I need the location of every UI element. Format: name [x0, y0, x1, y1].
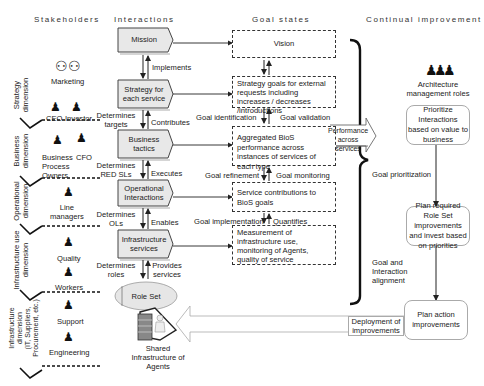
- header-interactions: Interactions: [114, 15, 175, 24]
- header-stakeholders: Stakeholders: [34, 15, 100, 24]
- stakeholder-ceo: CEO: [46, 114, 62, 123]
- dimension-infrastructure: Infrastructure dimension (IT, Suppliers,…: [8, 290, 40, 366]
- header-goal-states: Goal states: [252, 15, 310, 24]
- diagram-canvas: Stakeholders Interactions Goal states Co…: [0, 0, 484, 386]
- label-determines-roles: Determines roles: [92, 261, 140, 279]
- label-goal-prioritization: Goal prioritization: [372, 170, 431, 179]
- person-icon: ♟: [50, 100, 61, 114]
- step-plan-action[interactable]: Plan action improvements: [404, 300, 468, 340]
- dimension-strategy: Strategy dimension: [12, 70, 30, 120]
- label-goal-refinement: Goal refinement: [205, 171, 259, 180]
- label-executes: Executes: [151, 169, 182, 178]
- person-icon: ♟: [63, 330, 74, 344]
- label-determines-ols: Determines OLs: [92, 210, 140, 228]
- dimension-business: Business dimension: [12, 126, 30, 176]
- dimension-operational: Operational dimension: [12, 176, 30, 226]
- person-icon: ♟: [63, 235, 74, 249]
- label-contributes: Contributes: [151, 118, 190, 127]
- label-determines-targets: Determines targets: [92, 111, 140, 129]
- person-icon: ♟: [52, 133, 63, 147]
- interaction-business-tactics[interactable]: Business tactics: [126, 135, 162, 153]
- header-continual-improvement: Continual improvement: [366, 15, 482, 24]
- interaction-infrastructure-services[interactable]: Infrastructure services: [120, 235, 168, 253]
- goal-vision[interactable]: Vision: [232, 30, 336, 58]
- interaction-operational[interactable]: Operational Interactions: [120, 184, 168, 202]
- interaction-strategy[interactable]: Strategy for each service: [118, 85, 170, 103]
- performance-arrow-label: Performance across services: [328, 126, 368, 153]
- person-icon: ♟: [63, 265, 74, 279]
- role-set-label[interactable]: Role Set: [126, 292, 166, 301]
- stakeholder-investor: Investor: [65, 114, 92, 123]
- stakeholder-marketing: Marketing: [51, 77, 84, 86]
- step-plan-role-set[interactable]: Plan required Role Set improvements and …: [406, 206, 470, 246]
- stakeholder-line-managers: Line managers: [50, 203, 84, 221]
- goal-service-contributions[interactable]: Service contributions to BioS goals: [232, 182, 336, 212]
- label-goal-monitoring: Goal monitoring: [276, 171, 330, 180]
- group-people-icon: ♟♟♟: [425, 62, 452, 78]
- stakeholder-engineering: Engineering: [49, 348, 90, 357]
- stakeholder-support: Support: [57, 317, 84, 326]
- server-icon: [138, 308, 176, 340]
- label-goal-alignment: Goal and Interaction alignment: [372, 258, 420, 285]
- label-goal-identification: Goal identification: [196, 113, 256, 122]
- label-goal-validation: Goal validation: [280, 113, 330, 122]
- stakeholder-business-process-owners: Business Process Owners: [42, 153, 73, 180]
- goal-measurement[interactable]: Measurement of infrastructure use, monit…: [232, 225, 336, 265]
- handshake-icon: ⚇⚇: [55, 58, 81, 74]
- label-determines-red-sls: Determines RED SLs: [92, 161, 140, 179]
- stakeholder-cfo: CFO: [76, 153, 92, 162]
- person-icon: ♟: [63, 185, 74, 199]
- stakeholder-workers: Workers: [55, 283, 83, 292]
- label-goal-implementation: Goal implementation: [194, 217, 264, 226]
- step-prioritize[interactable]: Prioritize Interactions based on value t…: [406, 105, 470, 145]
- dimension-infrastructure-use: Infrastructure use dimension: [12, 228, 30, 292]
- person-icon: ♟: [76, 131, 87, 145]
- label-quantifies: Quantifies: [273, 217, 307, 226]
- label-enables: Enables: [151, 218, 178, 227]
- shared-infrastructure-label: Shared Infrastructure of Agents: [130, 344, 186, 371]
- goal-aggregated-performance[interactable]: Aggregated BioS performance across insta…: [232, 126, 336, 166]
- interaction-mission[interactable]: Mission: [118, 35, 170, 44]
- stakeholder-quality: Quality: [57, 254, 81, 263]
- person-icon: ♟: [71, 100, 82, 114]
- label-implements: Implements: [152, 63, 191, 72]
- goal-strategy[interactable]: Strategy goals for external requests inc…: [232, 76, 336, 108]
- deployment-arrow-label: Deployment of improvements: [348, 316, 404, 336]
- architecture-roles-label: Architecture management roles: [402, 80, 474, 98]
- person-icon: ♟: [63, 298, 74, 312]
- label-provides-services: Provides services: [150, 261, 184, 279]
